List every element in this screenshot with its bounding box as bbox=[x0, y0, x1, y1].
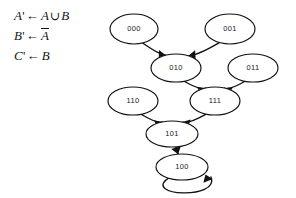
node-label: 001 bbox=[223, 24, 236, 33]
state-node-100[interactable]: 100 bbox=[156, 154, 208, 180]
node-label: 010 bbox=[169, 63, 182, 72]
node-layer: 000001010011110111101100 bbox=[108, 14, 278, 180]
state-node-111[interactable]: 111 bbox=[190, 87, 240, 115]
node-label: 101 bbox=[165, 129, 178, 138]
state-node-101[interactable]: 101 bbox=[146, 121, 198, 147]
state-node-001[interactable]: 001 bbox=[205, 14, 255, 44]
state-node-110[interactable]: 110 bbox=[108, 87, 158, 115]
diagram-page: A'←A∪B B'←A C'←B 00000101001111011110110… bbox=[0, 0, 296, 198]
state-node-010[interactable]: 010 bbox=[151, 54, 201, 82]
node-label: 111 bbox=[209, 96, 221, 105]
node-label: 100 bbox=[175, 162, 188, 171]
state-node-000[interactable]: 000 bbox=[110, 14, 158, 44]
node-label: 011 bbox=[247, 63, 260, 72]
state-node-011[interactable]: 011 bbox=[228, 54, 278, 82]
state-transition-graph: 000001010011110111101100 bbox=[0, 0, 296, 198]
node-label: 110 bbox=[127, 96, 140, 105]
node-label: 000 bbox=[127, 24, 140, 33]
